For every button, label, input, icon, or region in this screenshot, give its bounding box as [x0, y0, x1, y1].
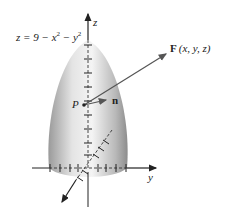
equation-label: z = 9 − x2 − y2: [15, 30, 82, 43]
point-p-dot: [82, 103, 86, 107]
paraboloid-diagram: z = 9 − x2 − y2 z y x F(x, y, z) P n: [0, 0, 231, 207]
normal-vector-label: n: [112, 94, 118, 106]
x-axis-label: x: [65, 202, 71, 207]
y-axis-label: y: [147, 171, 153, 183]
point-p-label: P: [71, 98, 79, 110]
z-axis-label: z: [92, 16, 98, 28]
vector-field-label: F(x, y, z): [170, 42, 211, 55]
x-axis-outside: [62, 180, 76, 202]
